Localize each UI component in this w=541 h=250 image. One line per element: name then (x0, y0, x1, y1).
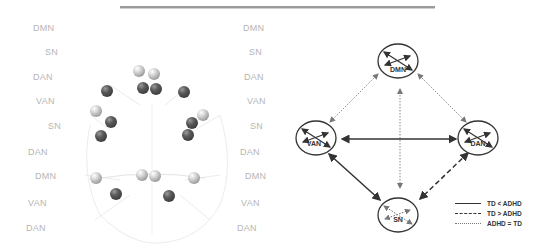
edge-dan-sn (420, 153, 468, 199)
node-sphere-dark (178, 86, 190, 98)
network-label-sn: SN (250, 121, 263, 131)
network-label-sn: SN (249, 47, 262, 57)
node-dan: DAN (458, 121, 498, 155)
node-van: VAN (296, 121, 336, 155)
network-label-van: VAN (247, 96, 266, 106)
network-label-van: VAN (241, 198, 260, 208)
node-sphere-light (90, 105, 102, 117)
network-label-sn: SN (45, 47, 58, 57)
edge-dmn-dan (418, 74, 466, 122)
network-label-van: VAN (36, 96, 55, 106)
solid-line-icon (455, 203, 481, 204)
node-sphere-dark (137, 82, 149, 94)
edge-dmn-van (330, 74, 378, 122)
svg-text:DAN: DAN (470, 140, 485, 147)
network-label-dmn: DMN (243, 23, 264, 33)
legend-item-solid: TD < ADHD (455, 198, 541, 208)
node-sphere-light (149, 170, 161, 182)
network-label-dan: DAN (240, 147, 260, 157)
node-sphere-light (133, 65, 145, 77)
node-sphere-dark (163, 190, 175, 202)
network-label-dan: DAN (237, 223, 257, 233)
node-sphere-light (197, 109, 209, 121)
svg-text:VAN: VAN (307, 140, 321, 147)
dotted-line-icon (455, 223, 481, 224)
node-sphere-dark (105, 116, 117, 128)
network-label-sn: SN (48, 121, 61, 131)
legend-item-dashed: TD > ADHD (455, 208, 541, 218)
legend-item-dotted: ADHD = TD (455, 218, 541, 228)
svg-text:DMN: DMN (390, 66, 406, 73)
network-label-dmn: DMN (33, 23, 54, 33)
network-label-dan: DAN (244, 72, 264, 82)
node-sphere-light (148, 68, 160, 80)
legend-label: ADHD = TD (487, 220, 522, 227)
node-sphere-light (188, 172, 200, 184)
node-sphere-light (90, 172, 102, 184)
legend-label: TD < ADHD (487, 200, 522, 207)
network-label-dan: DAN (26, 223, 46, 233)
node-sphere-light (136, 169, 148, 181)
network-label-dmn: DMN (35, 171, 56, 181)
network-label-dan: DAN (33, 72, 53, 82)
node-sphere-dark (95, 130, 107, 142)
dashed-line-icon (455, 213, 481, 214)
node-sn: SN (378, 198, 418, 232)
node-sphere-dark (186, 117, 198, 129)
node-dmn: DMN (378, 44, 418, 78)
edge-van-sn (329, 154, 380, 200)
legend-label: TD > ADHD (487, 210, 522, 217)
network-label-van: VAN (28, 198, 47, 208)
network-label-dmn: DMN (245, 171, 266, 181)
node-sphere-dark (110, 188, 122, 200)
node-sphere-dark (150, 83, 162, 95)
node-sphere-dark (101, 85, 113, 97)
network-label-dan: DAN (28, 147, 48, 157)
node-sphere-dark (182, 129, 194, 141)
legend: TD < ADHD TD > ADHD ADHD = TD (455, 198, 541, 228)
svg-text:SN: SN (393, 216, 403, 223)
